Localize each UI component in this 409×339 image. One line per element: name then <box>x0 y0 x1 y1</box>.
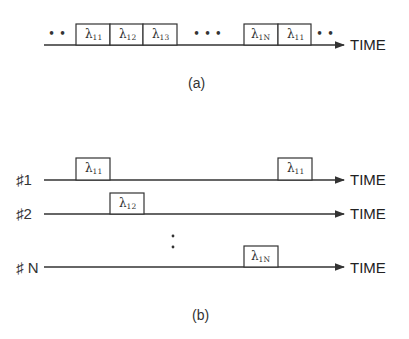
leading-dots: • • <box>48 27 66 41</box>
caption-a: (a) <box>188 75 205 91</box>
time-label-b1: TIME <box>350 171 386 188</box>
trailing-dots: • • <box>316 27 334 41</box>
channel-row-1: ♯1 TIME λ11 λ11 <box>16 158 386 188</box>
caption-b: (b) <box>192 307 209 323</box>
slot-a-1: λ11 <box>76 24 110 45</box>
vertical-dot-2 <box>172 246 175 249</box>
time-label-bn: TIME <box>350 259 386 276</box>
slot-a-4: λ1N <box>244 24 278 45</box>
channel-label-1: ♯1 <box>16 171 32 188</box>
channel-label-n: ♯ N <box>16 259 39 276</box>
panel-a: • • TIME λ11 λ12 λ13 • • • λ1N λ11 • • (… <box>44 24 386 91</box>
slot-a-5: λ11 <box>278 24 311 45</box>
slot-a-3: λ13 <box>143 24 177 45</box>
channel-row-n: ♯ N TIME λ1N <box>16 246 386 276</box>
vertical-dot-1 <box>172 235 175 238</box>
panel-b: ♯1 TIME λ11 λ11 ♯2 TIME λ12 ♯ N TIME λ1N <box>16 158 386 323</box>
time-label-a: TIME <box>350 36 386 53</box>
tdm-wavelength-diagram: • • TIME λ11 λ12 λ13 • • • λ1N λ11 • • (… <box>0 0 409 339</box>
middle-dots: • • • <box>193 27 222 41</box>
channel-row-2: ♯2 TIME λ12 <box>16 193 386 222</box>
slot-a-2: λ12 <box>110 24 143 45</box>
time-label-b2: TIME <box>350 205 386 222</box>
channel-label-2: ♯2 <box>16 205 32 222</box>
